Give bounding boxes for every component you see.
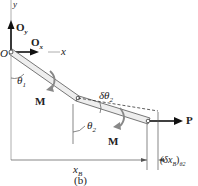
- theta2-label: θ2: [87, 120, 96, 134]
- y-axis-label: y: [13, 0, 17, 9]
- moment2-label: M: [108, 136, 118, 147]
- oy-arrow-icon: [8, 20, 15, 29]
- x-axis-label: x: [61, 46, 66, 57]
- dxB-label: (δxB)θ2: [160, 155, 185, 167]
- moment-arrow-icon: [113, 122, 121, 130]
- figure-caption: (b): [74, 175, 87, 186]
- moment1-label: M: [35, 96, 45, 107]
- oy-label: Oy: [16, 22, 28, 36]
- force-arrow-icon: [174, 117, 183, 125]
- ox-label: Ox: [31, 37, 43, 51]
- origin-label: O: [0, 48, 8, 59]
- dtheta2-label: δθ2: [99, 90, 113, 104]
- force-label: P: [186, 115, 193, 126]
- theta1-label: θ1: [17, 75, 26, 89]
